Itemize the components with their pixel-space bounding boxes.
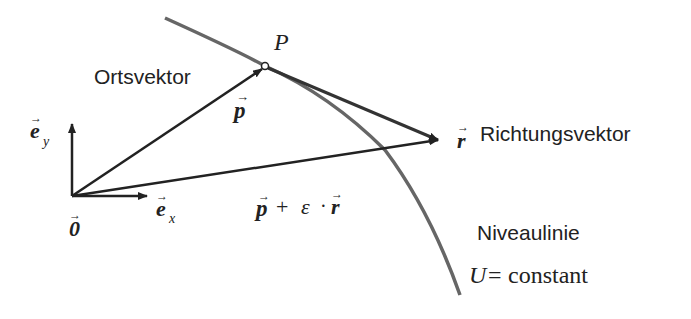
position-vector-p (72, 69, 262, 196)
point-p-label: P (273, 29, 289, 55)
svg-text:ε: ε (301, 194, 310, 219)
point-p-marker (262, 63, 269, 70)
vector-arrow-icon: → (30, 111, 42, 125)
sum-expression-label: p → + ε · r → (254, 187, 343, 221)
constant-equation-label: U = constant (469, 262, 588, 288)
origin-label: 0 → (69, 208, 81, 241)
basis-ex-label: e x → (156, 189, 176, 226)
vector-diagram: P Ortsvektor p → r → Richtungsvektor e y… (0, 0, 691, 319)
basis-ey-label: e y → (30, 111, 50, 149)
richtungsvektor-label: Richtungsvektor (480, 122, 631, 145)
vector-arrow-icon: → (69, 208, 81, 222)
vector-arrow-icon: → (258, 189, 270, 203)
vector-arrow-icon: → (331, 187, 343, 201)
svg-text:constant: constant (508, 262, 588, 288)
vec-p-label: p → (232, 89, 249, 123)
svg-text:x: x (168, 211, 176, 226)
vector-arrow-icon: → (457, 120, 469, 134)
niveaulinie-label: Niveaulinie (477, 221, 580, 244)
svg-text:+: + (276, 194, 288, 219)
svg-text:U: U (469, 262, 488, 288)
svg-text:=: = (488, 262, 502, 288)
level-curve (165, 18, 460, 295)
svg-text:y: y (41, 134, 50, 149)
ortsvektor-label: Ortsvektor (94, 65, 191, 88)
vector-p-plus-eps-r (72, 140, 438, 196)
vector-arrow-icon: → (156, 189, 168, 203)
direction-vector-r (268, 68, 438, 140)
vec-r-label: r → (457, 120, 469, 153)
svg-text:·: · (320, 195, 327, 217)
vector-arrow-icon: → (236, 89, 249, 104)
